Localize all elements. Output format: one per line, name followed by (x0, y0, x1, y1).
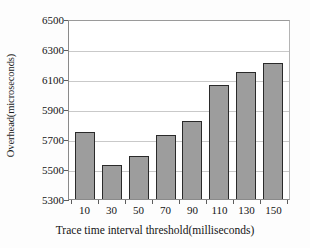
y-axis-tick-label: 6500 (22, 14, 64, 26)
x-axis-tick-label: 110 (206, 204, 233, 222)
bar (75, 132, 95, 199)
bar (102, 165, 122, 200)
bar (182, 121, 202, 199)
bar-slot (99, 21, 126, 199)
bar (156, 135, 176, 200)
x-axis-tick-label: 10 (71, 204, 98, 222)
x-axis-tick-label: 130 (233, 204, 260, 222)
bar (129, 156, 149, 200)
bar (263, 63, 283, 200)
x-axis-tick-label: 70 (152, 204, 179, 222)
y-axis-tick-labels: 5300550057005900610063006500 (22, 0, 67, 210)
bar (236, 72, 256, 199)
y-axis-tick-label: 5300 (22, 194, 64, 206)
bar-slot (72, 21, 99, 199)
bar-slot (233, 21, 260, 199)
y-axis-title-label: Overhead(microseconds) (6, 53, 17, 156)
y-axis-tick-label: 5700 (22, 134, 64, 146)
y-axis-tick-label: 5900 (22, 104, 64, 116)
plot-area (68, 20, 290, 200)
bar-slot (206, 21, 233, 199)
y-axis-title: Overhead(microseconds) (0, 0, 22, 210)
bar-slot (126, 21, 153, 199)
y-axis-tick-label: 6100 (22, 74, 64, 86)
x-axis-tick-labels: 1030507090110130150 (68, 204, 290, 222)
bar-slot (259, 21, 286, 199)
y-axis-tick-label: 6300 (22, 44, 64, 56)
x-axis-tick-label: 90 (179, 204, 206, 222)
x-axis-title: Trace time interval threshold(millisecon… (0, 224, 310, 236)
bars-layer (69, 21, 289, 199)
bar-chart: Overhead(microseconds) 53005500570059006… (0, 0, 310, 248)
x-axis-tick-label: 30 (98, 204, 125, 222)
bar-slot (179, 21, 206, 199)
bar (209, 85, 229, 199)
x-axis-tick-label: 150 (260, 204, 287, 222)
x-axis-tick-label: 50 (125, 204, 152, 222)
bar-slot (152, 21, 179, 199)
y-axis-tick-label: 5500 (22, 164, 64, 176)
